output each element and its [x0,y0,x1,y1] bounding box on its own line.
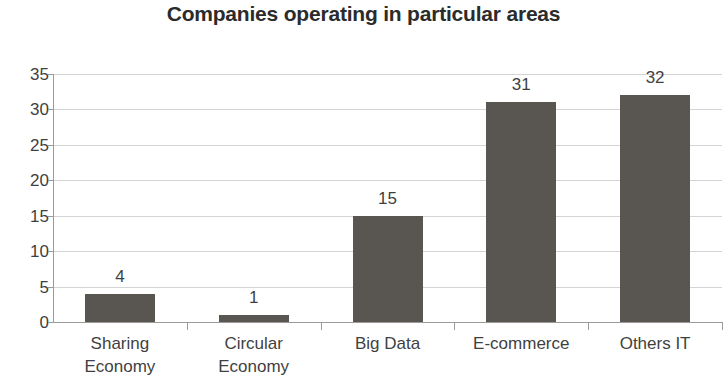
y-axis-tick-mark [48,216,54,217]
bar-chart: Companies operating in particular areas … [0,0,727,386]
bar-data-label: 4 [80,268,160,285]
y-axis-tick-mark [48,145,54,146]
bar-data-label: 1 [214,289,294,306]
x-axis-tick-mark [454,322,455,330]
y-axis-tick-label: 35 [5,66,49,83]
y-axis-tick-label: 20 [5,172,49,189]
y-axis-tick-label: 30 [5,101,49,118]
y-axis-tick-mark [48,180,54,181]
bar-data-label: 32 [615,69,695,86]
x-axis-tick-mark [321,322,322,330]
chart-title: Companies operating in particular areas [0,2,727,26]
x-axis-tick-mark [187,322,188,330]
y-axis-tick-label: 25 [5,137,49,154]
x-axis-category-label: SharingEconomy [53,332,187,378]
x-axis-category-label: E-commerce [454,332,588,355]
y-axis-tick-label: 10 [5,243,49,260]
x-axis-tick-mark [588,322,589,330]
x-axis-label-line: Economy [53,355,187,378]
bar [620,95,690,322]
y-axis-tick-mark [48,322,54,323]
y-axis-tick-mark [48,109,54,110]
x-axis-tick-mark [722,322,723,330]
bar [85,294,155,322]
x-axis-category-label: CircularEconomy [187,332,321,378]
x-axis-label-line: Sharing [53,332,187,355]
bar [486,102,556,322]
y-axis-tick-mark [48,251,54,252]
y-axis-tick-label: 15 [5,208,49,225]
x-axis-category-label: Others IT [588,332,722,355]
bar-data-label: 15 [348,190,428,207]
y-axis-tick-mark [48,74,54,75]
x-axis-label-line: E-commerce [454,332,588,355]
y-axis: 35302520151050 [0,0,49,386]
bar [219,315,289,322]
x-axis-label-line: Economy [187,355,321,378]
y-axis-tick-mark [48,287,54,288]
x-axis-label-line: Others IT [588,332,722,355]
x-axis-label-line: Big Data [321,332,455,355]
bar-data-label: 31 [481,76,561,93]
y-axis-tick-label: 5 [5,279,49,296]
bar [353,216,423,322]
x-axis-label-line: Circular [187,332,321,355]
gridline [53,322,722,323]
x-axis-category-label: Big Data [321,332,455,355]
y-axis-tick-label: 0 [5,314,49,331]
